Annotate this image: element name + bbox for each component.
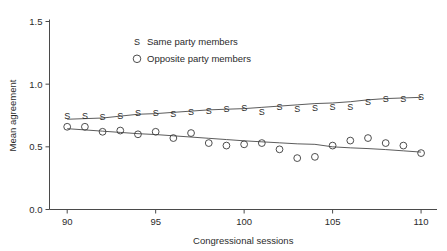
mean-agreement-scatter-chart: 0.00.51.01.59095100105110Congressional s… <box>0 0 447 251</box>
data-marker-same-party: S <box>294 104 300 114</box>
y-tick-label: 0.5 <box>29 141 42 152</box>
data-marker-same-party: S <box>418 92 424 102</box>
data-marker-opposite-party <box>347 137 354 144</box>
data-marker-same-party: S <box>64 111 70 121</box>
legend-label-same-party: Same party members <box>147 36 238 47</box>
data-marker-opposite-party <box>258 140 265 147</box>
legend-label-opposite-party: Opposite party members <box>147 53 251 64</box>
data-marker-opposite-party <box>400 142 407 149</box>
data-marker-opposite-party <box>294 155 301 162</box>
data-marker-same-party: S <box>188 107 194 117</box>
y-axis-title: Mean agreement <box>7 79 18 151</box>
data-marker-opposite-party <box>418 150 425 157</box>
data-marker-same-party: S <box>383 94 389 104</box>
data-marker-same-party: S <box>241 103 247 113</box>
x-tick-label: 95 <box>150 216 161 227</box>
data-marker-opposite-party <box>382 140 389 147</box>
x-tick-label: 105 <box>325 216 341 227</box>
data-marker-opposite-party <box>312 153 319 160</box>
data-marker-same-party: S <box>365 97 371 107</box>
legend-marker-opposite-party <box>133 55 141 63</box>
y-tick-label: 1.5 <box>29 16 42 27</box>
data-marker-same-party: S <box>347 102 353 112</box>
data-marker-opposite-party <box>365 135 372 142</box>
data-marker-opposite-party <box>223 142 230 149</box>
data-marker-same-party: S <box>135 108 141 118</box>
x-tick-label: 100 <box>236 216 252 227</box>
data-marker-opposite-party <box>135 131 142 138</box>
data-marker-opposite-party <box>64 123 71 130</box>
data-marker-same-party: S <box>259 107 265 117</box>
x-tick-label: 110 <box>413 216 428 227</box>
data-marker-opposite-party <box>329 142 336 149</box>
data-marker-same-party: S <box>170 109 176 119</box>
data-marker-same-party: S <box>400 94 406 104</box>
data-marker-opposite-party <box>99 128 106 135</box>
data-marker-same-party: S <box>206 106 212 116</box>
data-marker-same-party: S <box>117 111 123 121</box>
data-marker-same-party: S <box>82 111 88 121</box>
chart-container: 0.00.51.01.59095100105110Congressional s… <box>0 0 447 251</box>
data-marker-opposite-party <box>241 141 248 148</box>
data-marker-opposite-party <box>188 130 195 137</box>
data-marker-same-party: S <box>277 102 283 112</box>
y-tick-label: 1.0 <box>29 79 42 90</box>
legend-marker-same-party: S <box>134 37 140 47</box>
x-axis-title: Congressional sessions <box>193 235 294 246</box>
data-marker-same-party: S <box>153 108 159 118</box>
trend-line-opposite-party <box>67 129 421 152</box>
data-marker-opposite-party <box>276 146 283 153</box>
data-marker-same-party: S <box>330 102 336 112</box>
x-tick-label: 90 <box>62 216 73 227</box>
data-marker-same-party: S <box>100 112 106 122</box>
data-marker-opposite-party <box>117 127 124 134</box>
y-tick-label: 0.0 <box>29 204 42 215</box>
data-marker-opposite-party <box>205 140 212 147</box>
data-marker-same-party: S <box>223 104 229 114</box>
data-marker-opposite-party <box>81 123 88 130</box>
data-marker-same-party: S <box>312 103 318 113</box>
